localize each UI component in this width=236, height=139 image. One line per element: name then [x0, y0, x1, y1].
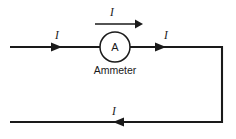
left-current-arrow-head — [51, 43, 62, 52]
circuit-svg: A Ammeter I I I I — [0, 0, 236, 139]
circuit-diagram: A Ammeter I I I I — [0, 0, 236, 139]
ammeter-caption: Ammeter — [94, 64, 137, 76]
label-bottom-current: I — [111, 105, 117, 117]
label-left-current: I — [54, 29, 60, 41]
right-current-arrow-head — [155, 43, 166, 52]
top-current-arrow-head — [135, 20, 143, 29]
bottom-current-arrow-head — [113, 118, 124, 127]
label-top-current: I — [109, 6, 115, 18]
label-right-current: I — [163, 29, 169, 41]
ammeter-symbol-letter: A — [111, 41, 119, 53]
